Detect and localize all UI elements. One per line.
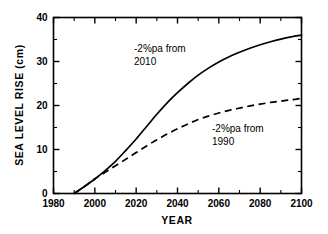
- y-tick-label: 10: [36, 144, 48, 155]
- annotation-upper: -2%pa from 2010: [134, 43, 186, 67]
- y-axis-tick-labels: 010203040: [36, 12, 48, 199]
- series-line-dashed: [74, 98, 301, 193]
- x-tick-label: 2020: [125, 198, 148, 209]
- annotation-lower-line1: -2%pa from: [212, 123, 264, 134]
- annotation-upper-line2: 2010: [134, 56, 157, 67]
- y-axis-title: SEA LEVEL RISE (cm): [13, 44, 25, 166]
- y-tick-label: 20: [36, 100, 48, 111]
- y-tick-label: 30: [36, 56, 48, 67]
- x-tick-label: 2000: [84, 198, 107, 209]
- x-tick-label: 2060: [208, 198, 231, 209]
- annotation-upper-line1: -2%pa from: [134, 43, 186, 54]
- annotation-lower-line2: 1990: [212, 136, 235, 147]
- sea-level-rise-line-chart: 1980200020202040206020802100 010203040 Y…: [0, 0, 328, 234]
- x-axis-tick-labels: 1980200020202040206020802100: [42, 198, 313, 209]
- x-tick-label: 2100: [290, 198, 313, 209]
- series-line-solid: [74, 35, 301, 193]
- data-series-group: [74, 35, 301, 193]
- chart-figure: 1980200020202040206020802100 010203040 Y…: [0, 0, 328, 234]
- annotation-lower: -2%pa from 1990: [212, 123, 264, 147]
- x-tick-label: 1980: [42, 198, 65, 209]
- y-tick-label: 0: [42, 188, 48, 199]
- x-tick-label: 2040: [166, 198, 189, 209]
- x-tick-label: 2080: [249, 198, 272, 209]
- x-axis-title: YEAR: [161, 214, 193, 226]
- y-tick-label: 40: [36, 12, 48, 23]
